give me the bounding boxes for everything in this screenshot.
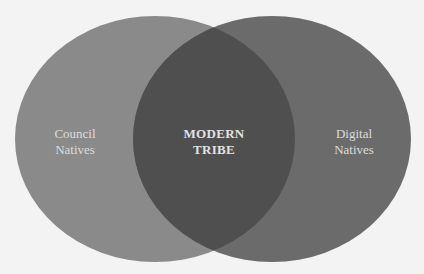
label-council-natives: Council Natives (44, 126, 106, 158)
label-modern-tribe: MODERN TRIBE (176, 126, 252, 158)
label-line: Council (44, 126, 106, 142)
label-digital-natives: Digital Natives (322, 126, 386, 158)
label-line: Natives (44, 142, 106, 158)
label-line: Digital (322, 126, 386, 142)
label-line: TRIBE (176, 142, 252, 158)
label-line: MODERN (176, 126, 252, 142)
label-line: Natives (322, 142, 386, 158)
